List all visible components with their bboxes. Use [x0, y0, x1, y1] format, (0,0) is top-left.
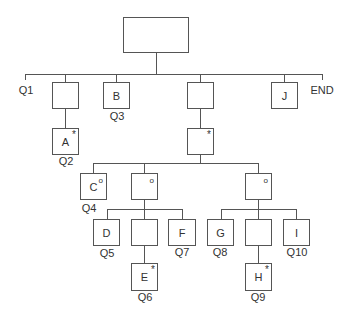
connector-level4-left — [107, 209, 183, 210]
label-q4: Q4 — [82, 202, 97, 214]
node-i: I — [283, 219, 310, 246]
root-node — [123, 17, 189, 53]
connector — [200, 155, 201, 163]
connector — [156, 53, 157, 74]
node-e: E * — [131, 263, 158, 291]
node-f: F — [168, 219, 196, 246]
connector — [258, 200, 259, 209]
connector — [200, 74, 201, 82]
label-q5: Q5 — [100, 247, 115, 259]
node-1 — [52, 82, 79, 109]
connector — [93, 163, 94, 173]
node-d: D — [93, 219, 120, 246]
asterisk-icon: * — [151, 265, 155, 275]
connector — [258, 246, 259, 263]
connector — [65, 109, 66, 128]
connector — [144, 209, 145, 219]
connector — [107, 209, 108, 219]
node-4: o — [131, 173, 158, 200]
node-b-label: B — [104, 90, 129, 102]
connector — [116, 74, 117, 82]
label-q8: Q8 — [213, 246, 228, 258]
connector — [144, 246, 145, 263]
connector — [322, 74, 323, 80]
connector — [200, 109, 201, 128]
label-q2: Q2 — [59, 155, 74, 167]
connector — [258, 209, 259, 219]
connector — [25, 74, 26, 80]
node-d-label: D — [94, 227, 119, 239]
connector — [296, 209, 297, 219]
connector — [284, 74, 285, 82]
circle-icon: o — [150, 176, 154, 186]
node-f-label: F — [169, 227, 195, 239]
node-h: H * — [245, 263, 272, 291]
label-q9: Q9 — [251, 291, 266, 303]
asterisk-icon: * — [72, 130, 76, 140]
label-q3: Q3 — [110, 110, 125, 122]
connector-level3 — [93, 163, 259, 164]
label-q7: Q7 — [175, 246, 190, 258]
tree-diagram: Q1 END B Q3 J A * Q2 * C o Q4 o o — [0, 0, 346, 320]
label-q10: Q10 — [287, 246, 308, 258]
connector-level1 — [25, 74, 323, 75]
circle-icon: o — [264, 176, 268, 186]
node-j-label: J — [272, 90, 297, 102]
node-a: A * — [52, 128, 79, 155]
node-j: J — [271, 82, 298, 109]
node-4-mid — [131, 219, 158, 246]
connector — [144, 163, 145, 173]
connector-level4-right — [221, 209, 297, 210]
label-end: END — [310, 84, 333, 96]
asterisk-icon: * — [265, 265, 269, 275]
circle-icon: o — [99, 176, 103, 186]
connector — [144, 200, 145, 209]
connector — [182, 209, 183, 219]
connector — [65, 74, 66, 82]
node-5-mid — [245, 219, 272, 246]
connector — [258, 163, 259, 173]
node-b: B — [103, 82, 130, 109]
label-q1: Q1 — [19, 84, 34, 96]
node-3 — [187, 82, 214, 109]
node-g: G — [207, 219, 234, 246]
node-c: C o — [80, 173, 107, 200]
node-i-label: I — [284, 227, 309, 239]
node-5: o — [245, 173, 272, 200]
node-g-label: G — [208, 227, 233, 239]
connector — [221, 209, 222, 219]
label-q6: Q6 — [138, 291, 153, 303]
node-3-child: * — [187, 128, 214, 155]
asterisk-icon: * — [207, 130, 211, 140]
